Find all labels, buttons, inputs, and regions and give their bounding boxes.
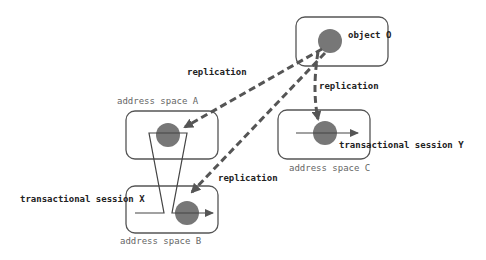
- replication-label-b: replication: [218, 173, 278, 183]
- object-o-label: object O: [348, 30, 392, 40]
- object-o-box: [296, 17, 388, 66]
- transactional-session-x: transactional session X: [20, 133, 213, 213]
- session-x-label: transactional session X: [20, 194, 145, 204]
- replication-diagram: object O address space A address space C…: [0, 0, 486, 260]
- object-replica-a-circle: [156, 123, 180, 147]
- object-o-node: object O: [296, 17, 392, 66]
- address-space-a-label: address space A: [117, 96, 199, 106]
- address-space-c-label: address space C: [289, 163, 370, 173]
- replication-label-c: replication: [319, 81, 379, 91]
- replication-label-a: replication: [187, 67, 247, 77]
- address-space-a-node: address space A: [117, 96, 218, 159]
- replication-arrow-to-a: [185, 49, 322, 127]
- session-y-label: transactional session Y: [339, 140, 464, 150]
- address-space-b-label: address space B: [120, 236, 201, 246]
